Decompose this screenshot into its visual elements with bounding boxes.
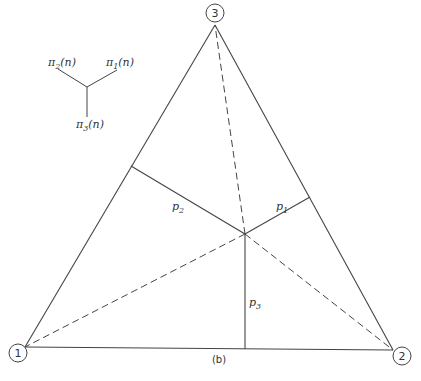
perpendiculars	[131, 166, 310, 349]
ternary-diagram: π2(n) π1(n) π3(n) p1 p2 p3 3 1 2 (b)	[0, 0, 421, 381]
label-p1: p1	[276, 200, 288, 215]
legend-label-pi2: π2(n)	[47, 56, 76, 71]
legend: π2(n) π1(n) π3(n)	[47, 56, 134, 133]
figure-caption: (b)	[212, 354, 226, 365]
vertex-label-2: 2	[399, 350, 406, 363]
vertex-label-3: 3	[212, 7, 219, 20]
triangle-side-1-3	[25, 25, 215, 347]
vertex-node-2: 2	[393, 347, 411, 365]
triangle	[25, 25, 393, 350]
vertex-node-3: 3	[206, 4, 224, 22]
triangle-side-1-2	[25, 347, 393, 350]
legend-arm-pi1	[87, 70, 117, 87]
legend-label-pi1: π1(n)	[105, 56, 134, 71]
dashed-line-to-vertex-3	[215, 25, 245, 234]
legend-arm-pi2	[58, 69, 87, 87]
perpendicular-p2	[131, 166, 245, 234]
label-p3: p3	[249, 296, 261, 311]
vertex-node-1: 1	[9, 344, 27, 362]
vertex-label-1: 1	[15, 347, 22, 360]
legend-label-pi3: π3(n)	[75, 118, 104, 133]
triangle-side-3-2	[215, 25, 393, 350]
dashed-line-to-vertex-2	[245, 234, 393, 350]
label-p2: p2	[172, 200, 184, 215]
dashed-lines	[25, 25, 393, 350]
